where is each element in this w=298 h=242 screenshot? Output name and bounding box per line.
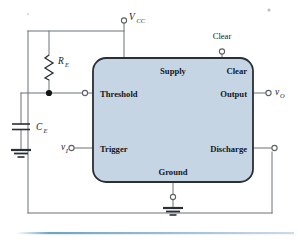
pin-label-trigger: Trigger — [100, 144, 128, 154]
terminal-trigger[interactable] — [69, 145, 74, 150]
terminal-vcc[interactable] — [121, 18, 126, 23]
vcc-subscript: CC — [137, 17, 146, 24]
pin-label-clear: Clear — [226, 66, 247, 76]
ic-block-body[interactable] — [93, 58, 253, 182]
terminal-threshold[interactable] — [82, 90, 87, 95]
pin-label-output: Output — [220, 89, 247, 99]
capacitor-symbol: C — [36, 122, 43, 132]
resistor-subscript: E — [64, 61, 69, 68]
capacitor-subscript: E — [43, 127, 48, 134]
output-subscript: O — [280, 92, 285, 99]
terminal-output[interactable] — [266, 90, 271, 95]
resistor-symbol: R — [57, 56, 64, 66]
circuit-diagram-555-timer: Supply Clear Threshold Output Trigger Di… — [0, 0, 298, 242]
terminal-discharge[interactable] — [272, 145, 277, 150]
ic-block[interactable] — [93, 58, 253, 182]
pin-label-discharge: Discharge — [210, 144, 247, 154]
footer-rule — [16, 232, 294, 234]
pin-label-ground: Ground — [159, 167, 188, 177]
pin-label-supply: Supply — [160, 66, 187, 76]
pin-label-threshold: Threshold — [100, 89, 138, 99]
junction-dot — [46, 90, 52, 96]
terminal-ground[interactable] — [170, 194, 175, 199]
terminal-clear[interactable] — [219, 49, 224, 54]
external-label-clear: Clear — [213, 31, 232, 41]
page-speck — [267, 8, 270, 11]
